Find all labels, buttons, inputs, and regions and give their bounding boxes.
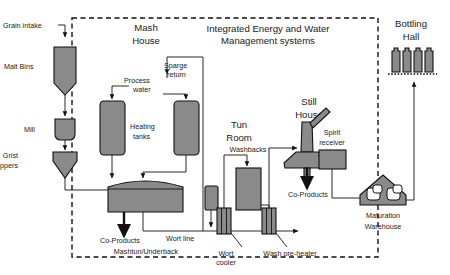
- wash-pre-heater-label: Wash pre-heater: [263, 249, 317, 258]
- process-water-label-line2: water: [132, 85, 151, 94]
- maturation-warehouse-label-line2: Warehouse: [365, 222, 402, 231]
- mill-label: Mill: [24, 125, 35, 134]
- zone-title-mash-house-line1: Mash: [134, 22, 157, 33]
- washbacks-vessel: [236, 168, 261, 210]
- grist-hoppers-label-line1: Grist: [3, 151, 18, 160]
- wash-pre-heater-body: [262, 208, 276, 234]
- co-products-still-label: Co-Products: [288, 190, 328, 199]
- mashtun-underback-label: Mashtun/Underback: [114, 247, 179, 256]
- zone-title-tun-room-line2: Room: [226, 132, 252, 143]
- spirit-receiver-label-line1: Spirit: [324, 128, 340, 137]
- wort-line-vessel: [205, 186, 218, 210]
- washbacks-label: Washbacks: [230, 145, 267, 154]
- zone-title-bottling-hall-line2: Hall: [403, 31, 420, 42]
- wort-cooler-label-line2: cooler: [216, 258, 236, 267]
- zone-title-mash-house-line2: House: [132, 35, 160, 46]
- grist-hoppers-label-line2: Hoppers: [0, 161, 18, 170]
- co-products-mash-label: Co-Products: [100, 236, 140, 245]
- zone-title-still-house-line1: Still: [301, 96, 316, 107]
- boundary-title-line2: Management systems: [221, 35, 315, 46]
- heating-tank-right: [174, 101, 199, 155]
- spirit-receiver-label-line2: receiver: [319, 138, 345, 147]
- zone-title-tun-room-line1: Tun: [231, 119, 247, 130]
- zone-title-bottling-hall-line1: Bottling: [395, 18, 427, 29]
- heating-tank-left: [100, 101, 125, 155]
- process-water-label-line1: Process: [124, 76, 150, 85]
- mill-vessel: [55, 119, 75, 140]
- wort-line-label: Wort line: [166, 234, 194, 243]
- heating-tanks-label-line1: Heating: [130, 122, 155, 131]
- sparge-return-label-line1: Sparge: [164, 61, 187, 70]
- still-neck: [301, 122, 313, 152]
- grain-intake-label: Grain intake: [3, 21, 42, 30]
- sparge-return-label-line2: return: [167, 70, 186, 79]
- wort-cooler-label-line1: Wort: [218, 249, 233, 258]
- spirit-receiver-vessel: [319, 150, 346, 169]
- maturation-warehouse-label-line1: Maturation: [366, 211, 400, 220]
- mashtun-vessel: [108, 181, 183, 212]
- boundary-title-line1: Integrated Energy and Water: [207, 23, 331, 34]
- malt-bins-label: Malt Bins: [4, 62, 34, 71]
- wort-cooler-body: [217, 208, 231, 234]
- process-flow-diagram: Integrated Energy and Water Management s…: [0, 0, 450, 275]
- heating-tanks-label-line2: tanks: [133, 132, 151, 141]
